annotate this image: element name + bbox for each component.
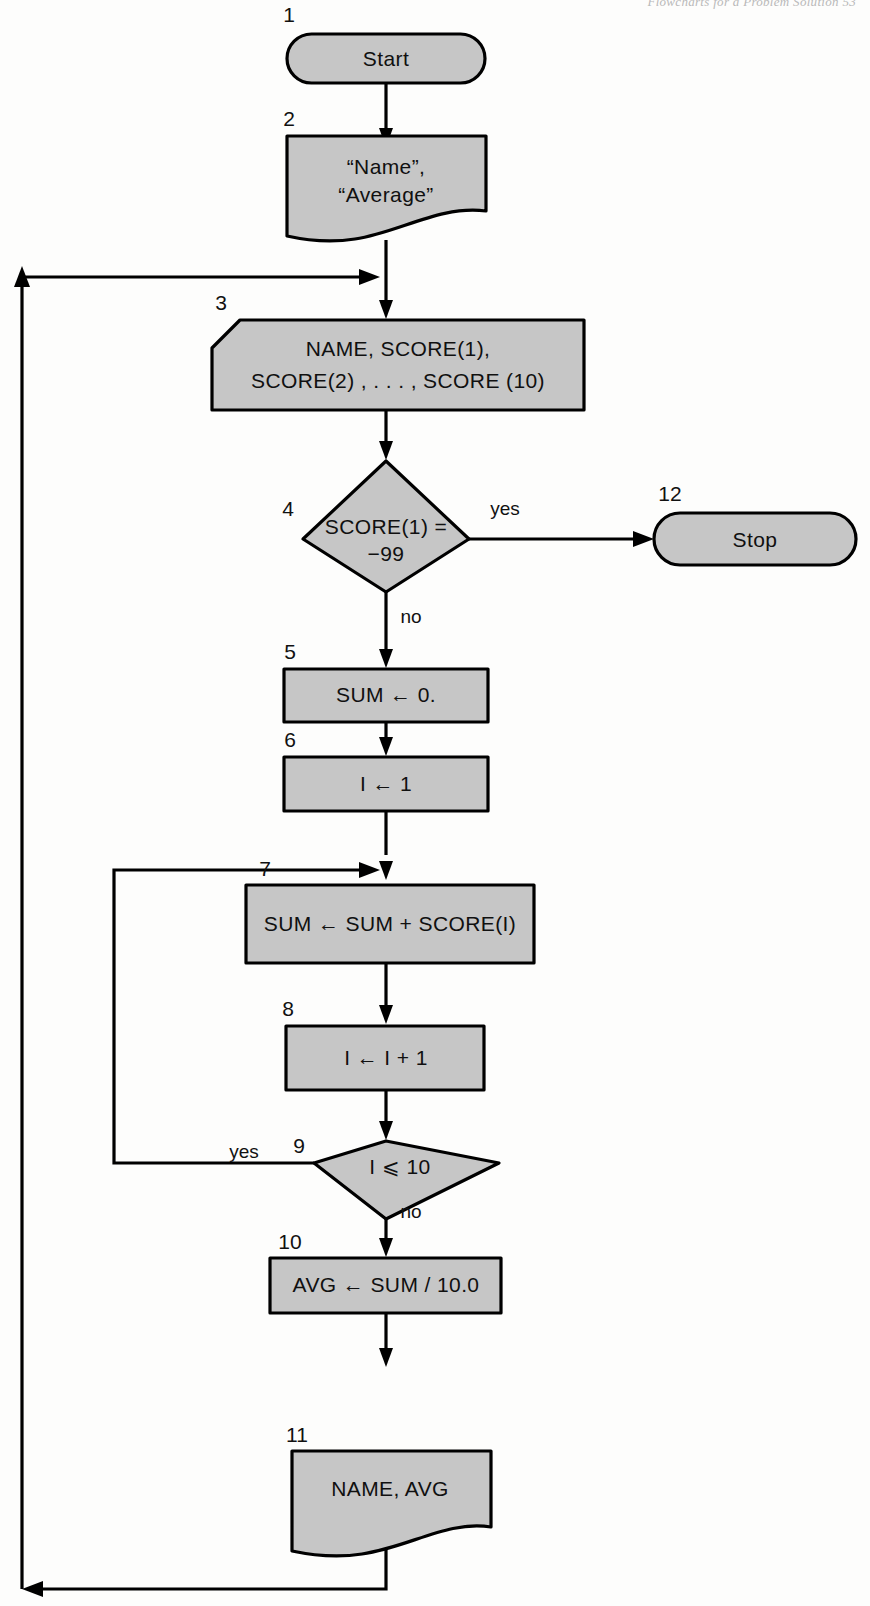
node-12-step-number: 12 (658, 482, 681, 505)
arrowhead-3-to-4 (379, 441, 393, 460)
connectors (14, 83, 654, 1597)
node-3-label-line2: SCORE(2) , . . . , SCORE (10) (251, 369, 545, 392)
node-11-output[interactable]: NAME, AVG 11 (286, 1423, 491, 1556)
node-1-label: Start (363, 47, 409, 70)
node-4-label-line2: −99 (368, 542, 405, 565)
node-3-input[interactable]: NAME, SCORE(1), SCORE(2) , . . . , SCORE… (212, 291, 584, 410)
flowchart-canvas: Start 1 “Name”, “Average” 2 NAME, SCORE(… (0, 0, 870, 1606)
edge-label-yes-top: yes (490, 498, 520, 519)
arrowhead-10-to-11 (379, 1348, 393, 1367)
arrowhead-4-to-12 (633, 531, 654, 547)
arrowhead-bottom-left (22, 1581, 43, 1597)
node-6-step-number: 6 (284, 728, 296, 751)
arrowhead-9-to-10 (379, 1238, 393, 1257)
node-11-label: NAME, AVG (331, 1477, 449, 1500)
node-10-step-number: 10 (278, 1230, 301, 1253)
node-5-label: SUM ← 0. (336, 683, 436, 706)
node-3-step-number: 3 (215, 291, 227, 314)
edge-label-no-top: no (400, 606, 421, 627)
edge-label-no-loop: no (400, 1201, 421, 1222)
document-output-shape-11[interactable] (292, 1451, 491, 1556)
node-7-step-number: 7 (259, 857, 271, 880)
node-7-label: SUM ← SUM + SCORE(I) (264, 912, 516, 935)
arrowhead-8-to-9 (379, 1121, 393, 1140)
node-10-label: AVG ← SUM / 10.0 (293, 1273, 480, 1296)
input-shape-3[interactable] (212, 320, 584, 410)
node-4-label-line1: SCORE(1) = (325, 515, 447, 538)
arrowhead-9-yes-loop (359, 862, 380, 878)
arrowhead-2-to-3 (379, 300, 393, 319)
node-5-step-number: 5 (284, 640, 296, 663)
node-8-label: I ← I + 1 (344, 1046, 428, 1069)
node-6-label: I ← 1 (360, 772, 412, 795)
node-8-step-number: 8 (282, 997, 294, 1020)
node-1-start[interactable]: Start 1 (283, 3, 485, 83)
node-11-step-number: 11 (286, 1423, 308, 1446)
node-12-label: Stop (733, 528, 778, 551)
node-2-step-number: 2 (283, 107, 295, 130)
node-12-stop[interactable]: Stop 12 (654, 482, 856, 565)
node-1-step-number: 1 (283, 3, 295, 26)
node-9-label: I ⩽ 10 (369, 1155, 430, 1178)
node-4-decision[interactable]: SCORE(1) = −99 4 (282, 461, 469, 592)
node-2-label-line2: “Average” (338, 183, 433, 206)
node-7-process[interactable]: SUM ← SUM + SCORE(I) 7 (246, 857, 534, 963)
arrowhead-5-to-6 (379, 737, 393, 756)
arrowhead-4-to-5 (379, 649, 393, 668)
flowchart-page: Flowcharts for a Problem Solution 53 (0, 0, 870, 1606)
edge-labels: yes no yes no (229, 498, 520, 1222)
edge-label-yes-loop: yes (229, 1141, 259, 1162)
node-9-step-number: 9 (293, 1134, 305, 1157)
node-9-decision[interactable]: I ⩽ 10 9 (293, 1134, 499, 1219)
node-3-label-line1: NAME, SCORE(1), (306, 337, 491, 360)
arrowhead-6-to-7 (379, 861, 393, 880)
arrowhead-outer-loop (359, 269, 380, 285)
arrowhead-7-to-8 (379, 1005, 393, 1024)
node-2-label-line1: “Name”, (347, 155, 426, 178)
node-4-step-number: 4 (282, 497, 294, 520)
